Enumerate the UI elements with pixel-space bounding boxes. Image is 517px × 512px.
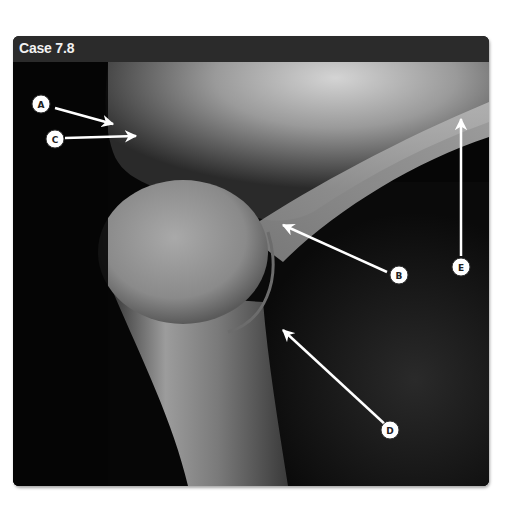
left-shadow xyxy=(13,62,108,486)
label-a: A xyxy=(32,95,50,113)
svg-text:A: A xyxy=(38,100,45,110)
figure-frame: Case 7.8 xyxy=(13,36,489,486)
label-d: D xyxy=(381,421,399,439)
figure-header: Case 7.8 xyxy=(13,36,489,62)
svg-text:E: E xyxy=(458,263,464,273)
humeral-head xyxy=(98,180,268,324)
svg-text:D: D xyxy=(386,426,393,436)
figure-title: Case 7.8 xyxy=(19,40,74,56)
label-e: E xyxy=(452,258,470,276)
label-c: C xyxy=(46,130,64,148)
svg-text:B: B xyxy=(396,271,403,281)
label-b: B xyxy=(390,266,408,284)
radiograph-image: A C B D E xyxy=(13,62,489,486)
svg-text:C: C xyxy=(52,135,59,145)
